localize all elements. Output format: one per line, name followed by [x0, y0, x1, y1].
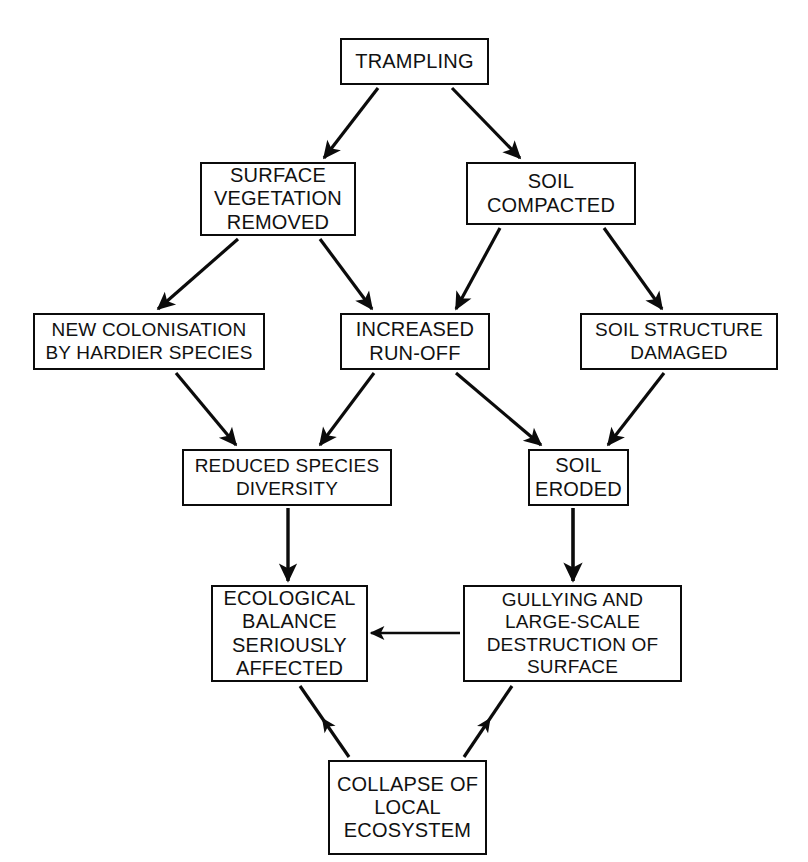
- cut-off-header-text: [8, 0, 528, 9]
- edge-increased-run-off-to-soil-eroded: [456, 373, 541, 445]
- edge-soil-structure-damaged-to-soil-eroded: [608, 373, 664, 445]
- edge-soil-compacted-to-soil-structure-damaged: [604, 228, 662, 309]
- node-label: SOIL STRUCTURE DAMAGED: [595, 319, 763, 363]
- node-soil-eroded[interactable]: SOIL ERODED: [528, 449, 629, 506]
- edge-surface-vegetation-removed-to-increased-run-off: [320, 239, 372, 309]
- node-label: REDUCED SPECIES DIVERSITY: [195, 455, 380, 499]
- edge-collapse-to-gullying: [464, 686, 512, 757]
- node-reduced-species-diversity[interactable]: REDUCED SPECIES DIVERSITY: [182, 449, 392, 506]
- node-soil-compacted[interactable]: SOIL COMPACTED: [466, 162, 636, 225]
- edge-increased-run-off-to-reduced-species-diversity: [320, 373, 374, 445]
- edge-collapse-to-ecological-balance: [300, 686, 349, 757]
- node-label: COLLAPSE OF LOCAL ECOSYSTEM: [337, 773, 478, 843]
- node-label: ECOLOGICAL BALANCE SERIOUSLY AFFECTED: [223, 587, 355, 680]
- edge-soil-compacted-to-increased-run-off: [456, 228, 500, 309]
- node-soil-structure-damaged[interactable]: SOIL STRUCTURE DAMAGED: [580, 313, 778, 370]
- node-surface-vegetation-removed[interactable]: SURFACE VEGETATION REMOVED: [200, 162, 356, 236]
- node-collapse-of-local-ecosystem[interactable]: COLLAPSE OF LOCAL ECOSYSTEM: [328, 760, 487, 855]
- node-increased-run-off[interactable]: INCREASED RUN-OFF: [340, 313, 490, 370]
- node-ecological-balance-seriously-affected[interactable]: ECOLOGICAL BALANCE SERIOUSLY AFFECTED: [211, 585, 368, 682]
- edge-layer: [0, 0, 808, 862]
- edge-trampling-to-surface-vegetation-removed: [324, 88, 378, 158]
- node-gullying-and-large-scale-destruction-of-surface[interactable]: GULLYING AND LARGE-SCALE DESTRUCTION OF …: [463, 585, 682, 682]
- flowchart-canvas: TRAMPLINGSURFACE VEGETATION REMOVEDSOIL …: [0, 0, 808, 862]
- node-label: SOIL COMPACTED: [487, 170, 615, 216]
- node-trampling[interactable]: TRAMPLING: [340, 38, 489, 85]
- node-label: GULLYING AND LARGE-SCALE DESTRUCTION OF …: [487, 589, 659, 677]
- node-label: SURFACE VEGETATION REMOVED: [214, 164, 342, 234]
- node-label: INCREASED RUN-OFF: [356, 318, 475, 364]
- node-label: NEW COLONISATION BY HARDIER SPECIES: [45, 319, 252, 363]
- node-label: TRAMPLING: [355, 50, 473, 73]
- node-new-colonisation-by-hardier-species[interactable]: NEW COLONISATION BY HARDIER SPECIES: [33, 313, 265, 370]
- edge-arrowhead-collapse-to-gullying: [486, 724, 487, 725]
- edge-new-colonisation-to-reduced-species-diversity: [176, 373, 236, 445]
- node-label: SOIL ERODED: [535, 454, 622, 500]
- edge-arrowhead-collapse-to-ecological-balance: [326, 724, 327, 725]
- edge-surface-vegetation-removed-to-new-colonisation: [158, 239, 238, 309]
- edge-trampling-to-soil-compacted: [452, 88, 520, 158]
